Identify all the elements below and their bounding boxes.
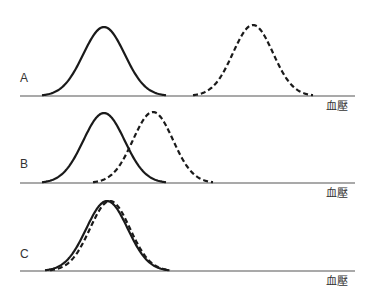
panel-c-solid-curve xyxy=(45,201,169,270)
panel-b-dashed-curve xyxy=(93,112,213,182)
panel-a-solid-curve xyxy=(42,27,166,95)
panel-b-label: B xyxy=(20,158,28,170)
diagram-canvas xyxy=(0,0,374,300)
panel-c-axis-label: 血壓 xyxy=(326,276,348,288)
panel-c-label: C xyxy=(20,248,29,260)
panel-a-label: A xyxy=(20,72,28,84)
panel-a-dashed-curve xyxy=(193,25,313,95)
panel-b-solid-curve xyxy=(42,113,166,182)
blood-pressure-distribution-diagram: A 血壓 B 血壓 C 血壓 xyxy=(0,0,374,300)
panel-b-axis-label: 血壓 xyxy=(326,188,348,200)
panel-a-axis-label: 血壓 xyxy=(326,101,348,113)
